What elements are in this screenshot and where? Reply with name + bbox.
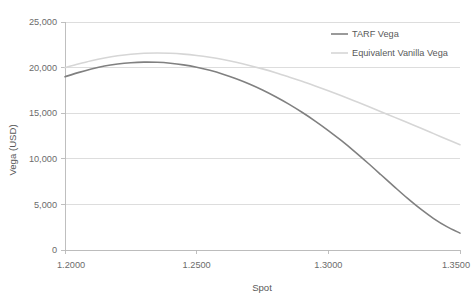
y-tick-label: 20,000 xyxy=(29,63,57,73)
x-tick-label: 1.2000 xyxy=(57,260,85,270)
x-axis-tick-labels: 1.20001.25001.30001.3500 xyxy=(57,260,470,270)
y-axis-tick-labels: 05,00010,00015,00020,00025,000 xyxy=(29,17,57,255)
vega-line-chart: 05,00010,00015,00020,00025,000 1.20001.2… xyxy=(0,0,473,303)
y-tick-label: 10,000 xyxy=(29,154,57,164)
x-tick-label: 1.3000 xyxy=(314,260,342,270)
y-axis-title: Vega (USD) xyxy=(7,124,18,175)
y-tick-label: 15,000 xyxy=(29,108,57,118)
y-tick-label: 5,000 xyxy=(34,200,57,210)
series-line-equivalent-vanilla-vega xyxy=(65,53,460,145)
chart-container: 05,00010,00015,00020,00025,000 1.20001.2… xyxy=(0,0,473,303)
x-tick-label: 1.3500 xyxy=(442,260,470,270)
data-series xyxy=(65,53,460,233)
legend-item-tarf-vega: TARF Vega xyxy=(331,29,400,39)
legend-label-equivalent-vanilla-vega: Equivalent Vanilla Vega xyxy=(352,48,449,58)
y-tick-label: 25,000 xyxy=(29,17,57,27)
chart-legend: TARF VegaEquivalent Vanilla Vega xyxy=(331,29,449,58)
series-line-tarf-vega xyxy=(65,62,460,233)
x-axis-title: Spot xyxy=(252,282,272,293)
legend-label-tarf-vega: TARF Vega xyxy=(352,29,400,39)
x-tick-label: 1.2500 xyxy=(183,260,211,270)
legend-item-equivalent-vanilla-vega: Equivalent Vanilla Vega xyxy=(331,48,449,58)
y-tick-label: 0 xyxy=(52,245,57,255)
